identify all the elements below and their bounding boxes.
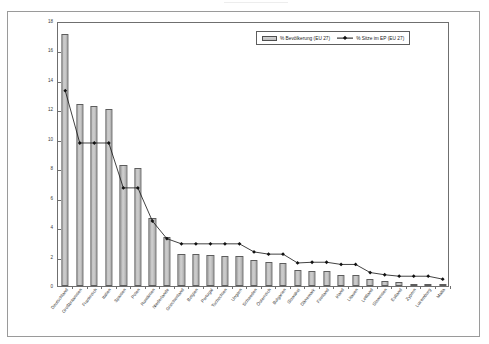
y-tick-label: 18 xyxy=(48,20,53,25)
plot-area xyxy=(57,22,449,287)
legend-label-seats: % Sitze im EP (EU 27) xyxy=(356,36,404,41)
x-axis-label-text: Estland xyxy=(390,288,403,303)
y-tick-label: 12 xyxy=(48,108,53,113)
y-tick-mark xyxy=(58,229,61,230)
y-tick-mark xyxy=(58,200,61,201)
x-axis-label-text: Malta xyxy=(436,288,446,299)
scan-artifact xyxy=(224,2,288,3)
y-tick-label: 0 xyxy=(50,285,53,290)
y-tick-label: 4 xyxy=(50,226,53,231)
line-marker-diamond xyxy=(296,261,300,265)
line-marker-diamond xyxy=(63,89,67,93)
x-axis-label-text: Luxemburg xyxy=(415,288,432,309)
line-marker-diamond xyxy=(368,271,372,275)
line-marker-diamond xyxy=(194,242,198,246)
x-axis-label-text: Polen xyxy=(131,288,142,300)
y-tick-label: 14 xyxy=(48,79,53,84)
y-tick-mark xyxy=(58,111,61,112)
line-marker-diamond xyxy=(209,242,213,246)
line-marker-diamond xyxy=(426,274,430,278)
line-marker-diamond xyxy=(281,252,285,256)
x-axis-category-labels: DeutschlandGroßbritannienFrankreichItali… xyxy=(57,288,449,340)
x-axis-label-text: Bulgarien xyxy=(272,288,287,306)
line-marker-diamond xyxy=(354,263,358,267)
line-marker-diamond xyxy=(121,186,125,190)
x-axis-label-text: Belgien xyxy=(187,288,200,303)
x-axis-label-text: Litauen xyxy=(347,288,360,302)
line-marker-diamond xyxy=(78,141,82,145)
y-tick-label: 6 xyxy=(50,196,53,201)
y-tick-label: 10 xyxy=(48,137,53,142)
x-axis-label-text: Spanien xyxy=(114,288,128,304)
x-axis-label-text: Österreich xyxy=(256,288,272,307)
x-axis-label-text: Irland xyxy=(335,288,345,300)
line-marker-diamond xyxy=(107,141,111,145)
y-tick-mark xyxy=(58,170,61,171)
line-marker-diamond xyxy=(252,250,256,254)
line-marker-diamond xyxy=(136,186,140,190)
line-diamond-swatch-icon xyxy=(337,36,353,41)
x-axis-label-text: Italien xyxy=(102,288,113,300)
line-marker-diamond xyxy=(180,242,184,246)
bar-swatch-icon xyxy=(262,36,277,41)
x-axis-label-text: Dänemark xyxy=(300,288,316,307)
legend-entry-seats: % Sitze im EP (EU 27) xyxy=(337,36,404,41)
x-axis-label-text: Frankreich xyxy=(82,288,99,308)
chart-legend: % Bevölkerung (EU 27) % Sitze im EP (EU … xyxy=(256,31,410,45)
line-marker-diamond xyxy=(325,260,329,264)
x-axis-label-text: Slowenien xyxy=(372,288,388,307)
y-tick-mark xyxy=(58,52,61,53)
y-tick-label: 16 xyxy=(48,49,53,54)
line-marker-diamond xyxy=(223,242,227,246)
line-series-layer xyxy=(58,23,450,288)
line-marker-diamond xyxy=(310,260,314,264)
y-tick-mark xyxy=(58,259,61,260)
y-axis: 024681012141618 xyxy=(38,22,56,287)
x-axis-label-text: Zypern xyxy=(406,288,418,302)
line-marker-diamond xyxy=(412,274,416,278)
y-tick-label: 2 xyxy=(50,255,53,260)
x-axis-label-text: Finnland xyxy=(316,288,330,304)
line-marker-diamond xyxy=(238,242,242,246)
legend-label-population: % Bevölkerung (EU 27) xyxy=(280,36,330,41)
y-tick-mark xyxy=(58,82,61,83)
y-tick-label: 8 xyxy=(50,167,53,172)
x-axis-label-text: Ungarn xyxy=(231,288,244,302)
line-marker-diamond xyxy=(92,141,96,145)
line-marker-diamond xyxy=(267,252,271,256)
y-tick-mark xyxy=(58,141,61,142)
legend-entry-population: % Bevölkerung (EU 27) xyxy=(262,36,330,41)
line-marker-diamond xyxy=(383,273,387,277)
chart-figure: 024681012141618 DeutschlandGroßbritannie… xyxy=(0,0,489,344)
line-marker-diamond xyxy=(339,263,343,267)
